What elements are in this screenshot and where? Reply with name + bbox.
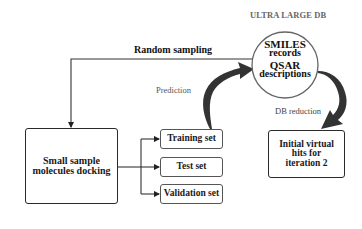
db-header-label: ULTRA LARGE DB [250, 10, 326, 20]
initial-virtual-hits-box: Initial virtual hits for iteration 2 [268, 130, 345, 178]
validation-set-box: Validation set [160, 184, 223, 204]
workflow-diagram: ULTRA LARGE DB SMILES records QSAR descr… [0, 0, 362, 229]
training-set-box: Training set [160, 129, 223, 149]
prediction-label: Prediction [156, 85, 191, 95]
db-reduction-curved-arrow [318, 71, 347, 129]
docking-line-2: molecules docking [32, 166, 110, 176]
prediction-curved-arrow [203, 62, 254, 129]
db-circle-content: SMILES records QSAR descriptions [252, 40, 318, 79]
hits-line-3: iteration 2 [279, 159, 334, 169]
random-sampling-label: Random sampling [134, 44, 212, 55]
test-set-box: Test set [160, 157, 223, 177]
small-sample-docking-box: Small sample molecules docking [25, 128, 118, 204]
descriptions-label: descriptions [252, 70, 318, 79]
records-label: records [252, 49, 318, 58]
db-reduction-label: DB reduction [275, 106, 321, 116]
